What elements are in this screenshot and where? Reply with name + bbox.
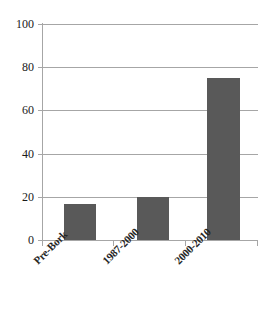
y-tick-label-80-wrap: 80 <box>0 61 34 73</box>
y-tick-label-80: 80 <box>2 61 34 73</box>
y-tick-label-20-wrap: 20 <box>0 191 34 203</box>
y-tick-20 <box>38 197 42 198</box>
y-tick-label-100: 100 <box>2 18 34 30</box>
y-tick-label-60: 60 <box>2 104 34 116</box>
y-tick-label-40-wrap: 40 <box>0 148 34 160</box>
plot-area <box>42 24 258 240</box>
y-tick-80 <box>38 67 42 68</box>
gridline-80 <box>42 67 258 68</box>
y-tick-100 <box>38 24 42 25</box>
y-tick-60 <box>38 110 42 111</box>
y-axis-line <box>42 23 43 241</box>
bar-1987-2000 <box>137 197 169 240</box>
bar-pre-bork <box>64 204 96 240</box>
gridline-100 <box>42 24 258 25</box>
y-tick-40 <box>38 154 42 155</box>
x-tick-end <box>257 240 258 246</box>
y-tick-label-0: 0 <box>2 234 34 246</box>
y-tick-label-20: 20 <box>2 191 34 203</box>
bar-chart: 100 80 60 40 20 0 Pre-Bork 1987-2000 200… <box>0 0 271 318</box>
y-tick-label-60-wrap: 60 <box>0 104 34 116</box>
y-tick-label-0-wrap: 0 <box>0 234 34 246</box>
axis-baseline-0 <box>42 240 258 241</box>
y-tick-label-100-wrap: 100 <box>0 18 34 30</box>
bar-2000-2010 <box>207 78 240 240</box>
y-tick-label-40: 40 <box>2 148 34 160</box>
